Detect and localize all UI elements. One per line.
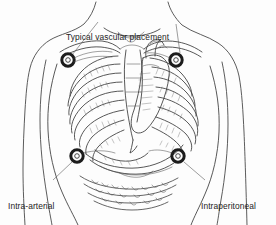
label-arterial-line-1: Intra-arterial	[8, 201, 55, 211]
illustration-canvas: .o{fill:none;stroke:#4a4a4a;stroke-width…	[0, 0, 276, 225]
label-typical-vascular-placement: Typical vascular placement	[66, 12, 169, 62]
port-upper-right[interactable]	[170, 54, 182, 66]
label-peritoneal-line-1: Intraperitoneal	[201, 201, 256, 211]
ribcage-right	[150, 58, 198, 159]
port-lower-right[interactable]	[172, 150, 184, 162]
sternum	[124, 50, 142, 153]
intestines	[80, 171, 178, 210]
ribcage-left	[68, 56, 124, 161]
catheter-tubing	[74, 51, 172, 153]
label-intraperitoneal-placement: Intraperitoneal placement	[201, 181, 256, 225]
leader-vascular-right	[176, 24, 180, 53]
leader-peritoneal	[184, 162, 205, 180]
port-lower-left[interactable]	[71, 150, 83, 162]
label-intra-arterial-placement: Intra-arterial placement	[8, 181, 55, 225]
leader-arterial	[53, 162, 72, 180]
label-vascular-line-1: Typical vascular placement	[66, 32, 169, 42]
